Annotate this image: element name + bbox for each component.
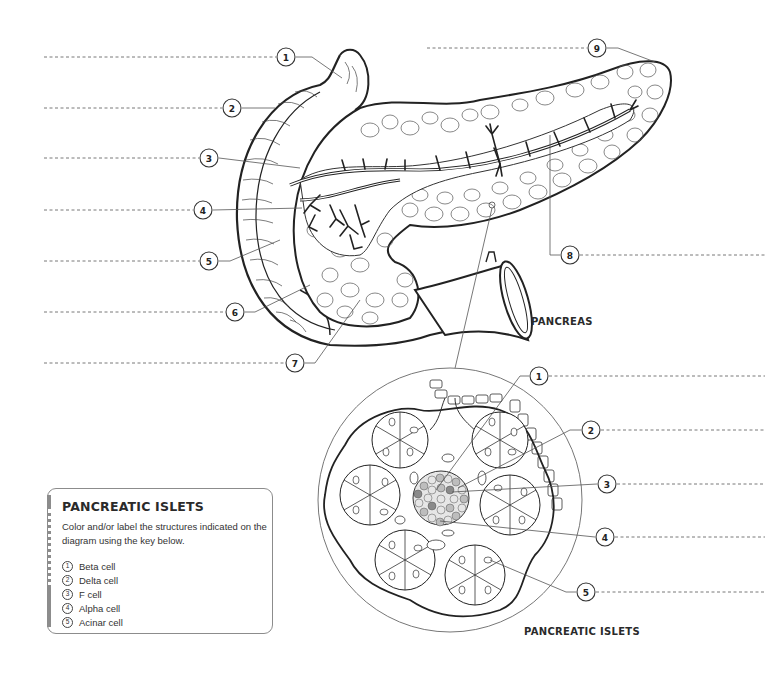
islet-cluster — [413, 471, 469, 526]
key-number: 2 — [62, 575, 73, 586]
islet-magnified-view: 1 2 3 4 5 — [318, 367, 765, 632]
stomach-tube — [415, 252, 539, 342]
key-item-acinar-cell: 5Acinar cell — [62, 615, 123, 629]
callout-3: 3 — [206, 154, 212, 164]
key-label: Alpha cell — [79, 603, 120, 614]
callout-7: 7 — [292, 359, 298, 369]
key-description: Color and/or label the structures indica… — [62, 520, 267, 548]
pancreas-title: PANCREAS — [531, 316, 593, 327]
callout-5: 5 — [206, 257, 212, 267]
callout-1: 1 — [283, 53, 289, 63]
callout-8: 8 — [567, 251, 573, 261]
islet-callout-2: 2 — [588, 426, 594, 436]
key-item-delta-cell: 2Delta cell — [62, 573, 123, 587]
key-list: 1Beta cell 2Delta cell 3F cell 4Alpha ce… — [62, 559, 123, 629]
islets-title: PANCREATIC ISLETS — [524, 626, 640, 637]
key-accent-bar — [47, 495, 51, 627]
key-panel: PANCREATIC ISLETS Color and/or label the… — [47, 488, 273, 634]
callout-9: 9 — [594, 44, 600, 54]
key-number: 1 — [62, 561, 73, 572]
key-label: Acinar cell — [79, 617, 123, 628]
key-number: 4 — [62, 603, 73, 614]
callout-2: 2 — [229, 104, 235, 114]
islet-callout-4: 4 — [602, 533, 608, 543]
key-item-f-cell: 3F cell — [62, 587, 123, 601]
key-title: PANCREATIC ISLETS — [62, 499, 204, 514]
key-number: 3 — [62, 589, 73, 600]
key-label: F cell — [79, 589, 102, 600]
key-item-alpha-cell: 4Alpha cell — [62, 601, 123, 615]
callout-4: 4 — [200, 206, 206, 216]
callout-6: 6 — [232, 308, 238, 318]
key-item-beta-cell: 1Beta cell — [62, 559, 123, 573]
key-label: Delta cell — [79, 575, 118, 586]
islet-callout-1: 1 — [536, 372, 542, 382]
islet-callout-3: 3 — [604, 480, 610, 490]
key-number: 5 — [62, 617, 73, 628]
key-label: Beta cell — [79, 561, 115, 572]
islet-callout-5: 5 — [583, 588, 589, 598]
